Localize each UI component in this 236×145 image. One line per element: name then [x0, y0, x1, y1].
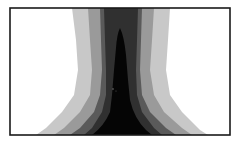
- speck: [112, 88, 114, 90]
- speck: [115, 90, 116, 91]
- contour-figure: [0, 0, 236, 145]
